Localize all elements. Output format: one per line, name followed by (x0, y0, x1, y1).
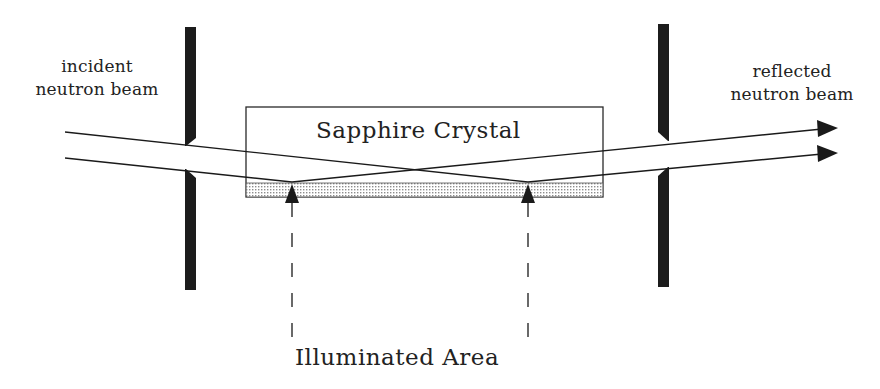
incident-label-line2: neutron beam (22, 78, 172, 101)
right-slit (658, 24, 669, 287)
incident-label-line1: incident (22, 55, 172, 78)
reflected-beam-label: reflected neutron beam (712, 60, 872, 106)
diagram-canvas: incident neutron beam reflected neutron … (0, 0, 880, 389)
illuminated-area-right-marker (521, 184, 535, 340)
reflected-label-line2: neutron beam (712, 83, 872, 106)
illuminated-area-left-marker (285, 184, 299, 340)
illuminated-area-label: Illuminated Area (295, 344, 499, 370)
reflected-label-line1: reflected (712, 60, 872, 83)
incident-beam-label: incident neutron beam (22, 55, 172, 101)
left-slit (185, 27, 196, 290)
crystal-label: Sapphire Crystal (316, 117, 521, 143)
arrowheads (817, 120, 838, 162)
arrowhead-icon (817, 145, 838, 162)
arrowhead-icon (817, 120, 838, 137)
